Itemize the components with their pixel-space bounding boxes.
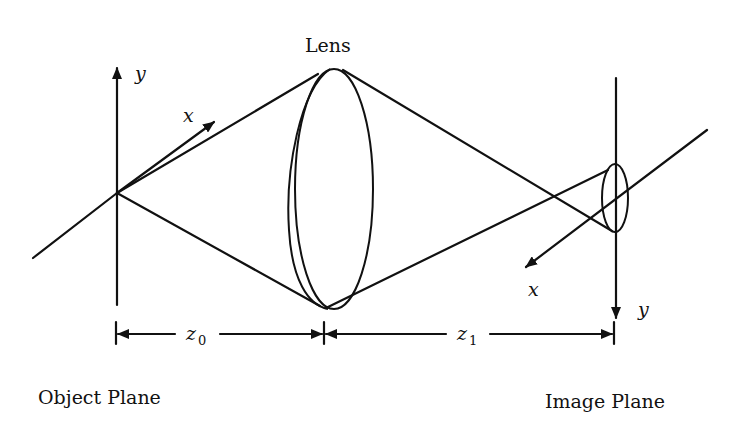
lens <box>288 69 373 309</box>
image-y-label: y <box>637 298 649 320</box>
lens-label: Lens <box>305 34 351 56</box>
optical-axis-left <box>33 193 117 258</box>
lens-front-ellipse <box>295 69 373 309</box>
ray-object-to-lens-bottom <box>117 193 320 306</box>
svg-text:0: 0 <box>198 333 206 348</box>
svg-text:z: z <box>185 322 197 344</box>
diagram-canvas: Lens y x x y z 0 z 1 Object Plane Image … <box>0 0 731 422</box>
object-plane-label: Object Plane <box>38 386 161 408</box>
ray-lens-top-to-image <box>343 70 612 231</box>
svg-text:1: 1 <box>469 333 477 348</box>
lens-imaging-diagram: Lens y x x y z 0 z 1 Object Plane Image … <box>0 0 731 422</box>
ray-lens-bottom-to-image <box>326 170 608 308</box>
object-x-label: x <box>183 104 194 126</box>
svg-text:z: z <box>456 322 468 344</box>
ray-object-to-lens-top <box>117 74 318 193</box>
image-x-label: x <box>528 278 539 300</box>
z0-label: z 0 <box>185 322 206 348</box>
object-y-label: y <box>134 62 146 84</box>
object-x-axis <box>117 122 214 193</box>
image-rays <box>326 70 612 308</box>
image-plane-label: Image Plane <box>545 390 665 412</box>
z1-label: z 1 <box>456 322 477 348</box>
